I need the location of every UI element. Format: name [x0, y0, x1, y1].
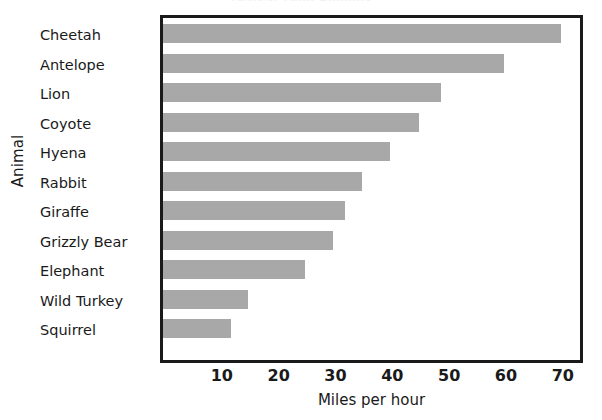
y-axis-tick-labels: CheetahAntelopeLionCoyoteHyenaRabbitGira… [0, 21, 152, 361]
x-axis-tick-label: 60 [484, 366, 528, 385]
x-axis-tick-label: 10 [200, 366, 244, 385]
y-axis-tick-label: Lion [40, 80, 145, 110]
bar [163, 83, 441, 102]
y-axis-tick-label: Wild Turkey [40, 287, 145, 317]
x-axis-tick-label: 40 [370, 366, 414, 385]
y-axis-tick-label: Cheetah [40, 21, 145, 51]
x-axis-tick-label: 30 [313, 366, 357, 385]
bar [163, 319, 231, 338]
x-axis-title: Miles per hour [160, 391, 583, 409]
y-axis-tick-label: Coyote [40, 110, 145, 140]
y-axis-tick-label: Squirrel [40, 316, 145, 346]
bar [163, 260, 305, 279]
y-axis-tick-label: Hyena [40, 139, 145, 169]
y-axis-tick-label: Elephant [40, 257, 145, 287]
bar [163, 113, 419, 132]
bar [163, 142, 390, 161]
bar [163, 172, 362, 191]
x-axis-tick-label: 20 [257, 366, 301, 385]
chart-title: Fastest Land Animals [0, 0, 602, 1]
bar [163, 231, 333, 250]
y-axis-tick-label: Antelope [40, 51, 145, 81]
y-axis-tick-label: Rabbit [40, 169, 145, 199]
plot-area [160, 15, 583, 363]
bar [163, 290, 248, 309]
x-axis-tick-label: 70 [541, 366, 585, 385]
bar [163, 54, 504, 73]
bar [163, 201, 345, 220]
x-axis-tick-label: 50 [427, 366, 471, 385]
y-axis-tick-label: Giraffe [40, 198, 145, 228]
bar [163, 24, 561, 43]
bars-container [163, 18, 580, 360]
x-axis-tick-labels: 10203040506070 [0, 366, 602, 388]
y-axis-tick-label: Grizzly Bear [40, 228, 145, 258]
